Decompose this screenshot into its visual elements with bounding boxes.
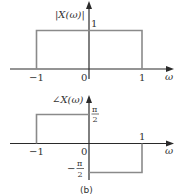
top-y-label: |X(ω)|: [55, 9, 85, 21]
top-y-arrow-icon: [86, 1, 92, 9]
top-level-label: 1: [91, 18, 97, 29]
phase-curve-negative: [89, 144, 142, 173]
top-tick-pos1: 1: [139, 72, 145, 83]
phase-plot: ∠X(ω) π 2 − π 2 −1 0 1 ω: [10, 94, 174, 180]
top-tick-zero: 0: [81, 72, 87, 83]
lower-level-sign: −: [67, 163, 75, 174]
bottom-tick-zero: 0: [81, 146, 87, 157]
upper-level-denominator: 2: [93, 115, 98, 124]
bottom-x-label: ω: [165, 145, 173, 156]
bottom-y-arrow-icon: [86, 95, 92, 103]
lower-level-numerator: π: [77, 159, 82, 168]
lower-level-denominator: 2: [78, 170, 83, 179]
figure: |X(ω)| 1 −1 0 1 ω ∠X(ω) π 2 − π 2 −1 0 1…: [0, 0, 183, 196]
bottom-y-label: ∠X(ω): [52, 94, 84, 105]
bottom-tick-pos1: 1: [139, 131, 145, 142]
upper-level-numerator: π: [92, 105, 97, 114]
bottom-tick-neg1: −1: [29, 146, 44, 157]
phase-curve-positive: [37, 115, 90, 144]
top-tick-neg1: −1: [29, 72, 44, 83]
figure-caption: (b): [80, 185, 93, 195]
magnitude-plot: |X(ω)| 1 −1 0 1 ω: [10, 1, 174, 83]
top-x-label: ω: [165, 71, 173, 82]
